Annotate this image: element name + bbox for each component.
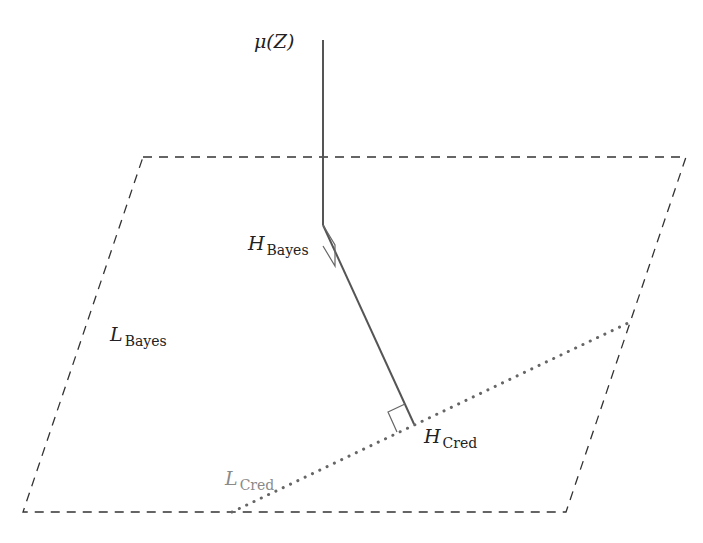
line-l-cred bbox=[232, 323, 628, 512]
label-h-bayes-main: H bbox=[248, 232, 265, 254]
projection-diagram bbox=[0, 0, 703, 543]
label-h-bayes: HBayes bbox=[248, 232, 309, 254]
label-l-bayes: LBayes bbox=[110, 323, 167, 345]
label-mu-z: μ(Z) bbox=[254, 30, 294, 52]
label-l-cred-sub: Cred bbox=[240, 477, 275, 493]
right-angle-marker-h-cred bbox=[388, 404, 405, 432]
label-l-cred: LCred bbox=[225, 467, 274, 489]
label-h-bayes-sub: Bayes bbox=[267, 242, 309, 258]
label-l-bayes-sub: Bayes bbox=[125, 333, 167, 349]
label-l-cred-main: L bbox=[225, 467, 238, 489]
label-h-cred-sub: Cred bbox=[443, 435, 478, 451]
label-h-cred: HCred bbox=[424, 425, 477, 447]
label-mu-z-main: μ(Z) bbox=[254, 30, 294, 52]
line-h-bayes-to-h-cred bbox=[323, 225, 414, 424]
label-h-cred-main: H bbox=[424, 425, 441, 447]
label-l-bayes-main: L bbox=[110, 323, 123, 345]
